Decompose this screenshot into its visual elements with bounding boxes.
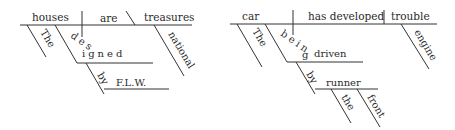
object-modifier-word: engine [412,27,439,62]
prep-word: by [95,70,111,86]
sentence-diagrams: houses are treasures The des igned by F.… [0,0,455,130]
diagram-2: car has developed trouble The bein g dri… [230,10,439,127]
subject-word: houses [32,11,69,23]
modifier-word: The [250,26,269,48]
prep-object-modifier-word: the [339,92,357,112]
diagram-1: houses are treasures The des igned by F.… [20,11,197,94]
prep-object-word: runner [326,77,361,88]
participle-word-rest: igned [82,48,125,59]
complement-word: treasures [144,11,195,23]
modifier-word: The [38,27,57,49]
prep-object-modifier-word: front [365,92,387,119]
object-word: trouble [391,10,430,22]
subject-word: car [242,10,260,22]
prep-word: by [304,69,320,85]
verb-word: are [100,12,118,24]
complement-modifier-word: national [166,29,197,70]
verb-word: has developed [308,10,384,22]
complement-divider [126,11,135,25]
prep-object-word: F.L.W. [116,77,146,88]
participle-word: driven [314,48,347,59]
participle-aux-g: g [302,49,309,60]
